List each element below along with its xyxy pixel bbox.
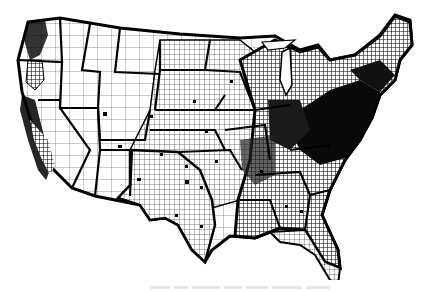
figure-caption-illegible [150,284,340,290]
us-county-map [0,0,434,280]
